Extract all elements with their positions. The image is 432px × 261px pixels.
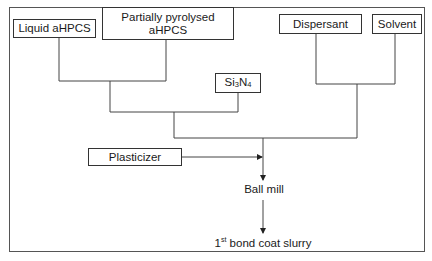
node-solvent-label: Solvent xyxy=(378,18,416,31)
node-dispersant: Dispersant xyxy=(279,14,362,34)
node-ball-mill: Ball mill xyxy=(244,183,284,195)
slurry-label-text: bond coat slurry xyxy=(226,237,311,249)
si3n4-si: Si xyxy=(225,76,235,88)
node-partially-pyrolysed-line2: aHPCS xyxy=(149,24,187,37)
node-partially-pyrolysed-ahpcs: Partially pyrolysed aHPCS xyxy=(102,7,234,40)
node-liquid-ahpcs-label: Liquid aHPCS xyxy=(18,22,90,35)
si3n4-sub-4: 4 xyxy=(247,80,251,89)
node-plasticizer: Plasticizer xyxy=(88,148,182,166)
node-si3n4-label: Si3N4 xyxy=(225,76,252,91)
node-liquid-ahpcs: Liquid aHPCS xyxy=(13,19,96,38)
node-bond-coat-slurry: 1st bond coat slurry xyxy=(215,236,312,249)
node-dispersant-label: Dispersant xyxy=(293,18,348,31)
node-partially-pyrolysed-line1: Partially pyrolysed xyxy=(121,11,214,24)
node-solvent: Solvent xyxy=(372,14,422,34)
node-si3n4: Si3N4 xyxy=(215,73,261,93)
node-plasticizer-label: Plasticizer xyxy=(109,151,161,164)
